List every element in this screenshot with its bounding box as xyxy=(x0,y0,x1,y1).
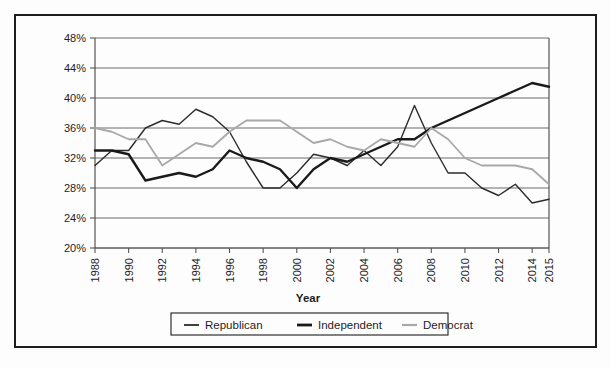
x-axis-tick-label: 1996 xyxy=(224,258,236,282)
y-axis-tick-label: 48% xyxy=(64,32,86,44)
y-axis-tick-label: 20% xyxy=(64,242,86,254)
x-axis-ticks xyxy=(95,248,549,253)
y-axis-tick-labels: 20%24%28%32%36%40%44%48% xyxy=(64,32,86,254)
x-axis-tick-label: 2000 xyxy=(291,258,303,282)
x-axis-tick-label: 2008 xyxy=(425,258,437,282)
y-axis-tick-label: 36% xyxy=(64,122,86,134)
y-axis-tick-label: 28% xyxy=(64,182,86,194)
y-axis-tick-label: 40% xyxy=(64,92,86,104)
series-lines xyxy=(95,83,549,203)
grid-lines xyxy=(95,38,549,248)
x-axis-tick-label: 1998 xyxy=(257,258,269,282)
legend: RepublicanIndependentDemocrat xyxy=(171,313,474,335)
legend-items: RepublicanIndependentDemocrat xyxy=(184,319,474,331)
x-axis-tick-labels: 1988199019921994199619982000200220042006… xyxy=(89,258,555,282)
line-chart: 20%24%28%32%36%40%44%48% 198819901992199… xyxy=(0,0,611,368)
chart-svg: 20%24%28%32%36%40%44%48% 198819901992199… xyxy=(0,0,611,368)
x-axis-tick-label: 2010 xyxy=(459,258,471,282)
y-axis-tick-label: 44% xyxy=(64,62,86,74)
y-axis-tick-label: 24% xyxy=(64,212,86,224)
x-axis-tick-label: 2012 xyxy=(493,258,505,282)
y-axis-ticks xyxy=(90,38,95,248)
series-line-independent xyxy=(95,83,549,188)
legend-label-republican: Republican xyxy=(205,319,263,331)
x-axis-tick-label: 1994 xyxy=(190,258,202,282)
legend-label-democrat: Democrat xyxy=(423,319,474,331)
x-axis-tick-label: 1992 xyxy=(156,258,168,282)
x-axis-tick-label: 2004 xyxy=(358,258,370,282)
x-axis-tick-label: 2014 xyxy=(526,258,538,282)
x-axis-title: Year xyxy=(296,292,321,304)
series-line-democrat xyxy=(95,121,549,185)
figure-page: 20%24%28%32%36%40%44%48% 198819901992199… xyxy=(0,0,611,368)
x-axis-tick-label: 2015 xyxy=(543,258,555,282)
y-axis-tick-label: 32% xyxy=(64,152,86,164)
x-axis-tick-label: 1988 xyxy=(89,258,101,282)
x-axis-tick-label: 2002 xyxy=(324,258,336,282)
legend-label-independent: Independent xyxy=(318,319,383,331)
x-axis-tick-label: 1990 xyxy=(123,258,135,282)
x-axis-tick-label: 2006 xyxy=(392,258,404,282)
